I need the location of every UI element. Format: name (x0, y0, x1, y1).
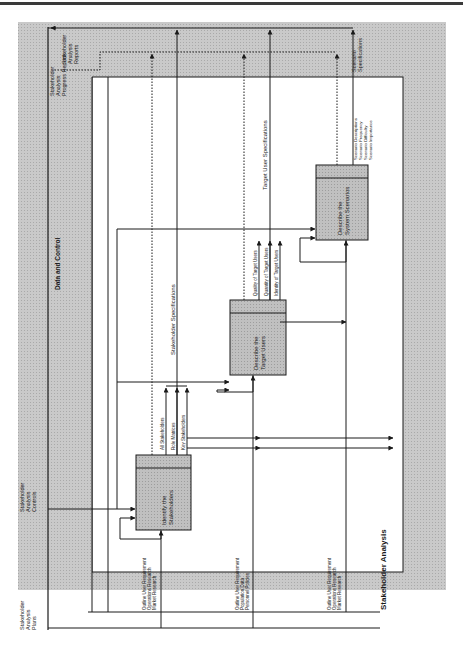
activity-a2-label-line: Target Users (260, 336, 266, 370)
label-data-and-control: Data and Control (54, 237, 61, 290)
activity-a2-label-line: Describe the (253, 336, 259, 370)
output-key-stakeholders: Key Stakeholders (181, 414, 186, 450)
activity-a3-label-line: System Scenarios (344, 187, 350, 235)
diagram-title: Stakeholder Analysis (379, 529, 388, 610)
label-analysis-reports-line: Reports (73, 44, 79, 64)
output-quality-target-users-line: Quality of Target Users (253, 250, 258, 296)
output-key-stakeholders-line: Key Stakeholders (181, 414, 186, 450)
output-quantity-target-users: Quantity of Target Users (264, 247, 269, 296)
output-role-matrices: Role Matrices (171, 422, 176, 450)
label-analysis-plans-line: Plans (31, 616, 37, 630)
output-quality-target-users: Quality of Target Users (253, 250, 258, 296)
activity-a3-label-line: Describe the (337, 201, 343, 235)
output-role-matrices-line: Role Matrices (171, 422, 176, 450)
diagram-title-line: Stakeholder Analysis (379, 529, 388, 610)
label-scenario-specifications-line: Specifications (357, 38, 363, 72)
label-stakeholder-specifications-line: Stakeholder Specifications (170, 284, 176, 355)
label-data-and-control-line: Data and Control (54, 237, 61, 290)
a3-output-labels-line: Scenario Importance (368, 120, 373, 160)
idef0-diagram: StakeholderAnalysisPlansStakeholderAnaly… (0, 0, 463, 647)
a1-input-labels-line: Market Research (152, 575, 157, 610)
a3-input-labels-line: Market Research (337, 575, 342, 610)
label-analysis-plans: StakeholderAnalysisPlans (19, 600, 37, 630)
output-all-stakeholders: All Stakeholders (160, 417, 165, 450)
label-target-user-specifications-line: Target User Specifications (262, 120, 268, 190)
output-quantity-target-users-line: Quantity of Target Users (264, 247, 269, 296)
activity-a2-label: Describe theTarget Users (253, 336, 266, 370)
control-band (48, 28, 92, 590)
label-stakeholder-specifications: Stakeholder Specifications (170, 284, 176, 355)
activity-a1-label-line: Identify the (161, 495, 167, 525)
label-analysis-controls-line: Controls (31, 491, 37, 512)
label-target-user-specifications: Target User Specifications (262, 120, 268, 190)
activity-a1-label-line: Stakeholders (168, 490, 174, 525)
a2-input-labels-line: Personnel Policies (245, 572, 250, 610)
output-all-stakeholders-line: All Stakeholders (160, 417, 165, 450)
output-identity-target-users-line: Identity of Target Users (274, 249, 279, 296)
output-identity-target-users: Identity of Target Users (274, 249, 279, 296)
